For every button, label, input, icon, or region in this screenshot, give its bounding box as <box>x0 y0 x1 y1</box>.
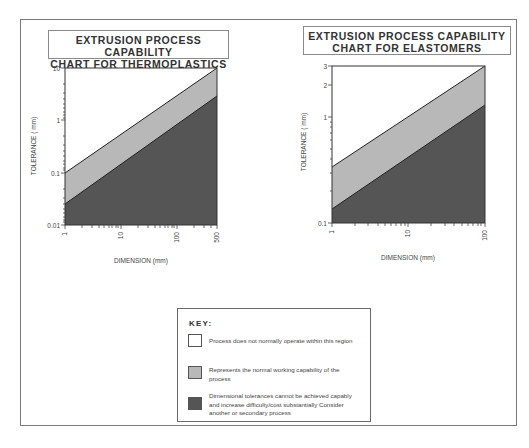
left-y-tick-0.1: 0.1 <box>51 170 60 177</box>
left-x-ticks <box>65 225 217 229</box>
right-y-axis-label: TOLERANCE ( mm) <box>300 113 308 171</box>
right-x-ticks <box>332 223 485 227</box>
right-chart: 3 2 1 0.1 1 10 100 DIMENSION (mm) TOLERA… <box>300 63 488 262</box>
dark-grey-swatch-icon <box>188 397 202 410</box>
left-y-tick-0.01: 0.01 <box>47 222 60 229</box>
left-x-tick-1: 1 <box>61 232 68 236</box>
legend-title: KEY: <box>189 319 212 328</box>
white-swatch-icon <box>188 334 202 347</box>
legend-text-white: Process does not normally operate within… <box>209 337 359 346</box>
right-y-tick-3: 3 <box>323 63 327 70</box>
left-x-tick-10: 10 <box>117 232 124 240</box>
light-grey-swatch-icon <box>188 366 202 379</box>
right-y-ticks <box>328 66 332 223</box>
legend-item-light: Represents the normal working capability… <box>188 366 359 383</box>
left-y-tick-1: 1 <box>56 117 60 124</box>
legend-text-dark: Dimensional tolerances cannot be achieve… <box>209 392 359 418</box>
left-chart: 10 1 0.1 0.01 1 10 100 500 DIMENSION (mm… <box>30 65 220 265</box>
left-y-tick-10: 10 <box>53 65 61 72</box>
legend-text-light: Represents the normal working capability… <box>209 366 359 383</box>
right-y-tick-2: 2 <box>323 82 327 89</box>
legend-item-white: Process does not normally operate within… <box>188 334 359 347</box>
right-x-tick-1: 1 <box>328 230 335 234</box>
legend-box: KEY: Process does not normally operate w… <box>177 308 371 422</box>
left-x-tick-500: 500 <box>213 232 220 243</box>
right-x-tick-10: 10 <box>404 230 411 238</box>
left-x-tick-100: 100 <box>173 232 180 243</box>
right-x-tick-100: 100 <box>481 230 488 241</box>
left-y-axis-label: TOLERANCE ( mm) <box>30 117 38 175</box>
right-y-tick-1: 1 <box>323 114 327 121</box>
legend-item-dark: Dimensional tolerances cannot be achieve… <box>188 392 359 418</box>
left-x-axis-label: DIMENSION (mm) <box>114 257 168 265</box>
left-y-ticks <box>61 68 65 225</box>
right-x-axis-label: DIMENSION (mm) <box>381 254 435 262</box>
right-y-tick-0.1: 0.1 <box>318 220 327 227</box>
